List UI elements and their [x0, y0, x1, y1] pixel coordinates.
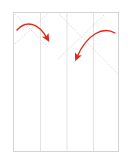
page-root: · ·· ···· ·· ·: [0, 0, 130, 161]
header-text-strip: · ·· ···· ·· ·: [0, 0, 130, 9]
red-curved-arrows: [17, 24, 115, 57]
arrow-right-icon: [77, 31, 115, 57]
diagonal-up-right-left-icon: [15, 14, 47, 44]
diagonal-up-right-center-icon: [58, 14, 105, 59]
diagram-canvas: [14, 13, 119, 152]
vertical-column-guides: [41, 13, 94, 152]
diagonal-down-right-center-icon: [59, 14, 118, 74]
arrow-left-icon: [17, 24, 47, 38]
document-page-preview[interactable]: [13, 12, 119, 152]
diagonal-down-right-left-icon: [15, 14, 48, 47]
header-text: · ·· ···· ·· ·: [26, 0, 73, 3]
